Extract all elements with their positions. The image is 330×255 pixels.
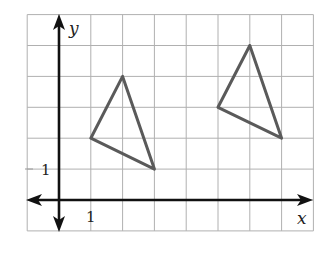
y-axis-label: y: [68, 18, 79, 38]
axes: y x 1 1: [25, 14, 313, 232]
coordinate-plane: y x 1 1: [0, 0, 330, 255]
grid-lines: [27, 15, 313, 231]
x-axis-label: x: [297, 208, 307, 228]
x-tick-label-1: 1: [86, 208, 96, 226]
y-tick-label-1: 1: [41, 161, 51, 179]
